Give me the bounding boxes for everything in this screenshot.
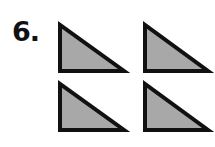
triangle-top-left	[60, 25, 124, 71]
triangle-bottom-left	[60, 84, 124, 130]
triangles-figure	[0, 0, 215, 147]
triangle-bottom-right	[145, 84, 208, 130]
triangle-top-right	[145, 25, 208, 71]
